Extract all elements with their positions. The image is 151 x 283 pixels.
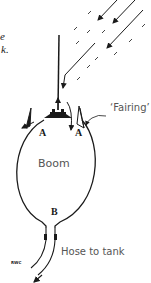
artist-initials: RWC <box>11 260 21 265</box>
label-boom: Boom <box>38 157 70 170</box>
label-hose-to-tank: Hose to tank <box>61 246 125 257</box>
hose-clamps <box>44 234 57 240</box>
fairing-pointer <box>86 115 106 125</box>
caption-fragment-2: k. <box>1 43 9 55</box>
nozzle-icon <box>44 109 72 118</box>
boom-airflow-diagram: e k. ‘Fairing’ A A Boom B Hose to tank R… <box>0 0 151 283</box>
airflow-arrow-icon <box>63 0 143 88</box>
fairing-left <box>22 108 34 128</box>
caption-fragment-1: e <box>0 30 5 42</box>
hose <box>31 228 55 282</box>
label-point-a-left: A <box>39 127 46 138</box>
fairing-right <box>77 106 84 128</box>
label-point-a-right: A <box>75 127 82 138</box>
label-point-b: B <box>51 206 58 217</box>
diagram-drawing <box>0 0 151 283</box>
label-fairing: ‘Fairing’ <box>110 102 150 113</box>
